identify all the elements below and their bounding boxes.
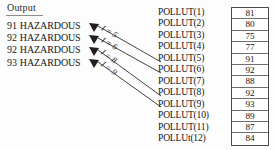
value-cell: 93: [232, 99, 268, 110]
output-line: 93HAZARDOUS: [7, 57, 99, 69]
pollut-label: POLLUT(6): [158, 63, 209, 74]
figure-output-diagram: Output 91HAZARDOUS 92HAZARDOUS 92HAZARDO…: [0, 0, 275, 150]
output-line: 92HAZARDOUS: [7, 44, 99, 56]
output-line-number: 92: [7, 32, 17, 43]
value-cell: 88: [232, 76, 268, 87]
output-line-number: 93: [7, 57, 17, 68]
output-line: 92HAZARDOUS: [7, 32, 99, 44]
output-heading: Output: [7, 2, 36, 13]
output-line-status: HAZARDOUS: [20, 57, 81, 68]
value-cell: 92: [232, 88, 268, 99]
output-line-status: HAZARDOUS: [20, 20, 81, 31]
output-line-status: HAZARDOUS: [20, 44, 81, 55]
value-cell: 80: [232, 19, 268, 30]
pollut-label: POLLUT(8): [158, 86, 209, 97]
pollut-label: POLLUT(5): [158, 52, 209, 63]
value-cell: 92: [232, 65, 268, 76]
pollut-value-table: 81 80 75 77 91 92 88 92 93 89 87 84: [231, 7, 269, 146]
heading-underline: [6, 15, 43, 16]
pollut-label: POLLUT(7): [158, 75, 209, 86]
pollut-label: POLLUT(3): [158, 29, 209, 40]
value-cell: 81: [232, 8, 268, 19]
pollut-label: POLLUT(10): [158, 109, 209, 120]
output-lines-list: 91HAZARDOUS 92HAZARDOUS 92HAZARDOUS 93HA…: [7, 20, 99, 69]
value-cell: 75: [232, 31, 268, 42]
pollut-label: POLLUT(11): [158, 121, 209, 132]
pollut-label: POLLUT(2): [158, 17, 209, 28]
value-cell: 77: [232, 42, 268, 53]
value-cell: 84: [232, 133, 268, 144]
pollut-label: POLLUT(1): [158, 6, 209, 17]
pollut-label: POLLUT(9): [158, 98, 209, 109]
arrow-label-4: I = 9: [99, 60, 118, 77]
output-line-status: HAZARDOUS: [20, 32, 81, 43]
value-cell: 91: [232, 54, 268, 65]
value-cell: 87: [232, 122, 268, 133]
pollut-label: POLLUt(12): [158, 132, 209, 143]
pollut-label: POLLUT(4): [158, 40, 209, 51]
output-line-number: 92: [7, 44, 17, 55]
value-cell: 89: [232, 111, 268, 122]
pollut-label-list: POLLUT(1) POLLUT(2) POLLUT(3) POLLUT(4) …: [158, 6, 209, 143]
output-line: 91HAZARDOUS: [7, 20, 99, 32]
output-line-number: 91: [7, 20, 17, 31]
